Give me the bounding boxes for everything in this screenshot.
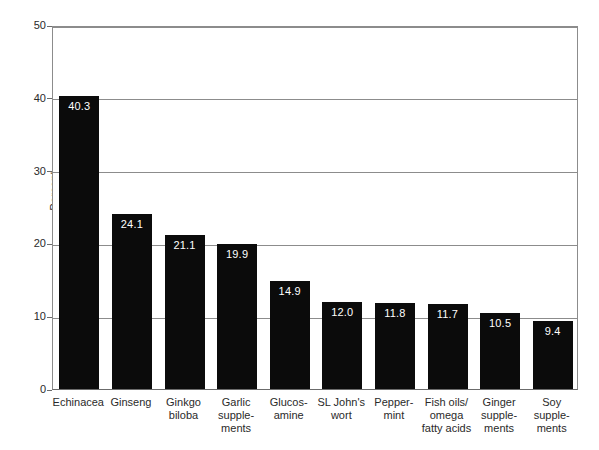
x-tick-label: Ginger supple- ments (473, 396, 526, 435)
gridline (53, 172, 577, 173)
plot-area: 40.324.121.119.914.912.011.811.710.59.4 (52, 26, 578, 390)
bar: 12.0 (322, 302, 362, 389)
bar-value-label: 14.9 (270, 286, 310, 297)
bar-chart: Percent 01020304050 40.324.121.119.914.9… (0, 0, 599, 450)
x-tick-label: Ginkgo biloba (157, 396, 210, 422)
gridline (53, 27, 577, 28)
x-tick-label: Ginseng (105, 396, 158, 409)
y-tick-label: 20 (12, 238, 46, 249)
x-tick-label: Garlic supple- ments (210, 396, 263, 435)
y-tick-label: 50 (12, 20, 46, 31)
bar: 24.1 (112, 214, 152, 389)
bar: 14.9 (270, 281, 310, 389)
bar: 40.3 (59, 96, 99, 389)
y-tick-label: 10 (12, 311, 46, 322)
bar-value-label: 40.3 (59, 101, 99, 112)
bar-value-label: 11.8 (375, 308, 415, 319)
y-tick-label: 40 (12, 93, 46, 104)
bar: 11.7 (428, 304, 468, 389)
bar: 9.4 (533, 321, 573, 389)
bar-value-label: 12.0 (322, 307, 362, 318)
gridline (53, 99, 577, 100)
x-tick-label: SL John's wort (315, 396, 368, 422)
bar: 10.5 (480, 313, 520, 389)
bar: 21.1 (165, 235, 205, 389)
bar: 11.8 (375, 303, 415, 389)
bar-value-label: 9.4 (533, 326, 573, 337)
y-tick-label: 0 (12, 384, 46, 395)
bar-value-label: 21.1 (165, 240, 205, 251)
bar-value-label: 10.5 (480, 318, 520, 329)
bar-value-label: 11.7 (428, 309, 468, 320)
x-tick-label: Echinacea (52, 396, 105, 409)
x-tick-label: Pepper- mint (368, 396, 421, 422)
x-tick-label: Glucos- amine (262, 396, 315, 422)
x-tick-label: Fish oils/ omega fatty acids (420, 396, 473, 435)
y-tick-label: 30 (12, 166, 46, 177)
bar: 19.9 (217, 244, 257, 389)
bar-value-label: 19.9 (217, 249, 257, 260)
x-tick-label: Soy supple- ments (525, 396, 578, 435)
bar-value-label: 24.1 (112, 219, 152, 230)
